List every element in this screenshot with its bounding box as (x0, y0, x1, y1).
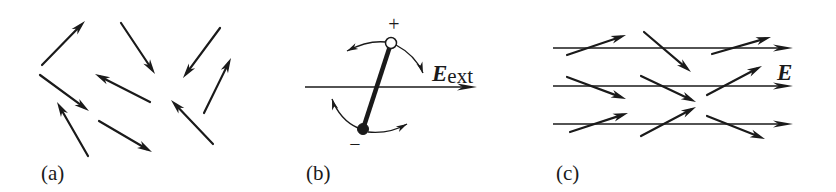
panel-b-dipole-in-field: +−Eext(b) (305, 13, 477, 185)
dipole-arrow (204, 58, 231, 113)
rotation-arrow (368, 124, 407, 132)
rotation-arrow (396, 45, 423, 73)
dipole-arrow (40, 75, 89, 111)
panel-c-aligned-dipoles: E(c) (553, 32, 793, 185)
dipole-arrow (641, 107, 696, 136)
dipole-arrow (42, 21, 85, 65)
panel-label-b: (b) (306, 161, 331, 185)
arrowhead-icon (95, 74, 110, 84)
rotation-arrow (332, 99, 358, 128)
panel-a-random-dipoles: (a) (40, 21, 231, 185)
dipole-arrow (644, 32, 691, 72)
positive-charge (386, 38, 397, 49)
dipole-arrow (641, 76, 696, 102)
dipole-arrow (707, 116, 765, 139)
dipole-rod (363, 43, 391, 129)
dipole-arrow (712, 37, 771, 54)
arrowhead-icon (57, 102, 68, 117)
arrowhead-icon (137, 141, 152, 152)
field-label-e-ext: Eext (431, 61, 473, 88)
positive-sign: + (388, 13, 399, 35)
field-label-e: E (776, 60, 792, 85)
dipole-arrow (567, 35, 626, 55)
panel-label-c: (c) (556, 161, 579, 185)
negative-sign: − (349, 133, 360, 155)
dipole-arrow (95, 74, 150, 102)
arrowhead-icon (681, 107, 696, 118)
dipole-arrow (707, 66, 762, 95)
dipole-arrow (567, 77, 626, 99)
panel-label-a: (a) (41, 161, 64, 185)
dipole-arrow (570, 113, 628, 132)
arrowhead-icon (143, 59, 155, 74)
dipole-arrow (121, 23, 155, 74)
dipole-arrow (183, 28, 220, 78)
arrowhead-icon (221, 58, 231, 73)
dipole-arrow (57, 102, 88, 156)
dipole-orientation-figure: (a) +−Eext(b) E(c) (0, 0, 836, 192)
dipole-arrow (99, 121, 152, 152)
arrowhead-icon (747, 66, 762, 77)
rotation-arrow (347, 42, 386, 51)
